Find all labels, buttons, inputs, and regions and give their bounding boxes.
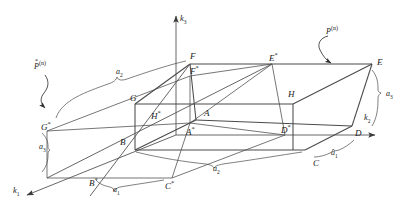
- vertex-label-D: D: [355, 129, 362, 138]
- edge-C-D: [305, 126, 352, 150]
- leader-P-star-n: [41, 75, 48, 108]
- cell-dimension-a1-bottom-left: a1: [113, 186, 120, 196]
- plane-label-P-star-n: P*(n): [34, 60, 46, 71]
- vertex-label-E: E: [377, 58, 383, 67]
- axis-label-k1: k1: [13, 186, 20, 197]
- vertex-label-D-star: D*: [281, 124, 291, 135]
- vertex-label-H: H: [288, 90, 295, 99]
- vertex-label-E-star: E*: [269, 52, 278, 63]
- diag-Bs-Es: [47, 64, 272, 178]
- cell-dimension-a3-right: a3: [386, 90, 393, 100]
- cell-dimension-a2-bottom-mid: a2: [213, 165, 220, 175]
- cell-dimension-a2-top-left: a2: [116, 68, 123, 78]
- cell-dimension-a3-left: a3: [39, 143, 46, 153]
- unit-cell-figure: k3 k2 k1 A A* B B* C C* D D* E E* F F* G…: [0, 0, 403, 216]
- vertex-label-A-star: A*: [186, 126, 195, 137]
- edge-F-G: [135, 64, 190, 104]
- vertex-label-F: F: [190, 52, 196, 61]
- axis-label-k3: k3: [180, 14, 187, 25]
- axis-k1-line: [27, 135, 176, 195]
- edge-Cs-Ds: [172, 135, 285, 178]
- brace-a3-right: [372, 70, 381, 126]
- axis-label-k2: k2: [364, 113, 371, 124]
- edge-A-D: [196, 120, 352, 126]
- diagonal-guides: [47, 64, 272, 196]
- vertex-label-H-star: H*: [151, 110, 161, 121]
- edge-Es-As: [190, 64, 272, 123]
- vertex-label-B-star: B*: [89, 177, 98, 188]
- figure-canvas: [0, 0, 403, 216]
- plane-label-P-n: P(n): [326, 25, 338, 36]
- cell-dimension-a1-bottom-right: a1: [331, 149, 338, 159]
- edge-As-Ds: [190, 123, 285, 135]
- edge-H-E: [293, 64, 372, 104]
- vertex-label-A: A: [204, 109, 210, 118]
- axis-lines: [27, 16, 375, 195]
- edge-Hs-Gs: [47, 123, 190, 131]
- leader-P-n: [319, 36, 331, 63]
- vertex-label-G: G: [130, 94, 137, 103]
- vertex-label-C-star: C*: [165, 180, 174, 191]
- brace-a1-bottom-left: [96, 180, 164, 191]
- vertex-label-F-star: F*: [190, 65, 199, 76]
- vertex-label-G-star: G*: [41, 121, 51, 132]
- vertex-label-B: B: [120, 138, 126, 147]
- vertex-label-C: C: [313, 159, 319, 168]
